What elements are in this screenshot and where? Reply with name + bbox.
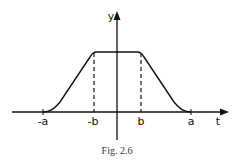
tick-label-b: b (138, 115, 145, 128)
figure-canvas: -a -b b a t y Fig. 2.6 (0, 0, 238, 163)
y-axis-label: y (108, 10, 115, 23)
x-axis-label: t (216, 115, 221, 128)
tick-label-minus-b: -b (88, 115, 99, 128)
tick-label-a: a (188, 115, 195, 128)
tick-label-minus-a: -a (38, 115, 49, 128)
y-axis-arrow-icon (114, 11, 121, 20)
figure-caption: Fig. 2.6 (102, 145, 133, 156)
x-axis-arrow-icon (220, 109, 229, 116)
